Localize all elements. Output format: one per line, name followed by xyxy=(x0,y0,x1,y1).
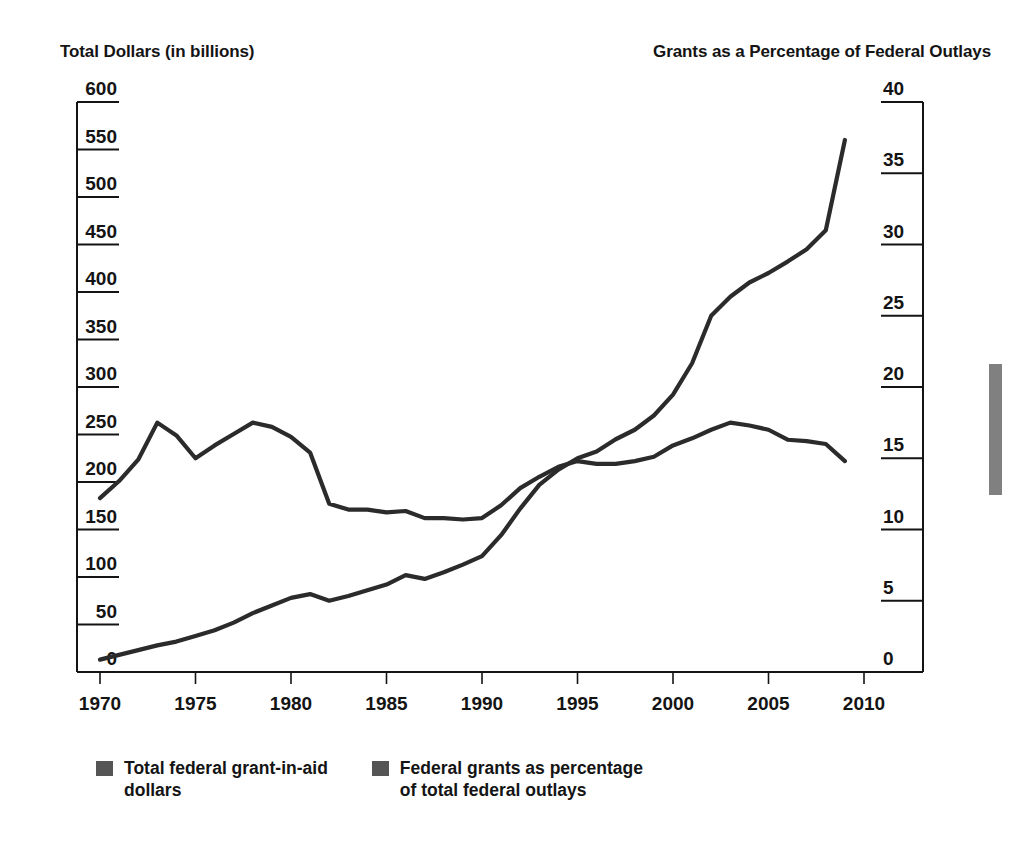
x-axis-tick-label: 1975 xyxy=(174,693,217,714)
left-axis-tick-label: 250 xyxy=(85,411,117,432)
legend-item: Federal grants as percentage of total fe… xyxy=(372,757,643,801)
left-axis-tick-label: 350 xyxy=(85,316,117,337)
legend-label: Federal grants as percentage of total fe… xyxy=(400,757,643,801)
legend-item: Total federal grant-in-aid dollars xyxy=(96,757,328,801)
right-axis-tick-label: 20 xyxy=(883,363,904,384)
left-axis-tick-label: 500 xyxy=(85,173,117,194)
legend-label: Total federal grant-in-aid dollars xyxy=(124,757,328,801)
data-series xyxy=(100,140,845,660)
chart-figure: Total Dollars (in billions) Grants as a … xyxy=(0,0,1009,857)
left-axis-tick-label: 200 xyxy=(85,458,117,479)
right-axis-tick-label: 35 xyxy=(883,149,905,170)
left-axis-tick-label: 150 xyxy=(85,506,117,527)
x-axis-tick-label: 1970 xyxy=(79,693,121,714)
x-axis-tick-label: 1980 xyxy=(270,693,312,714)
left-axis-tick-label: 400 xyxy=(85,268,117,289)
x-axis-tick-label: 2010 xyxy=(843,693,885,714)
x-axis-tick-label: 1985 xyxy=(365,693,408,714)
left-axis-tick-label: 450 xyxy=(85,221,117,242)
series-line xyxy=(100,423,845,520)
x-axis-tick-label: 2005 xyxy=(747,693,790,714)
x-axis-tick-label: 1995 xyxy=(556,693,599,714)
legend-swatch-icon xyxy=(96,761,113,776)
x-axis: 197019751980198519901995200020052010 xyxy=(77,672,923,714)
series-line xyxy=(100,140,845,660)
x-axis-tick-label: 2000 xyxy=(652,693,694,714)
left-axis-tick-label: 600 xyxy=(85,78,117,99)
right-axis-tick-label: 10 xyxy=(883,506,904,527)
legend-swatch-icon xyxy=(372,761,389,776)
right-axis-tick-label: 25 xyxy=(883,292,905,313)
right-axis-tick-label: 15 xyxy=(883,434,905,455)
right-axis-tick-label: 30 xyxy=(883,221,904,242)
chart-plot-area: 050100150200250300350400450500550600 051… xyxy=(0,0,1009,740)
chart-legend: Total federal grant-in-aid dollars Feder… xyxy=(96,757,643,801)
right-axis-tick-label: 5 xyxy=(883,577,894,598)
page-edge-marker-bar xyxy=(989,364,1002,495)
left-axis-tick-label: 50 xyxy=(96,601,117,622)
right-axis-tick-label: 40 xyxy=(883,78,904,99)
x-axis-tick-label: 1990 xyxy=(461,693,503,714)
left-axis-tick-label: 100 xyxy=(85,553,117,574)
left-axis-tick-label: 550 xyxy=(85,126,117,147)
right-axis: 0510152025303540 xyxy=(881,78,923,672)
left-axis-tick-label: 300 xyxy=(85,363,117,384)
left-axis: 050100150200250300350400450500550600 xyxy=(77,78,119,672)
right-axis-tick-label: 0 xyxy=(883,648,894,669)
